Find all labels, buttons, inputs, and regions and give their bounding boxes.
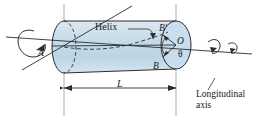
label-point-b: B	[153, 62, 159, 72]
label-longitudinal-axis-line1: Longitudinal	[196, 90, 245, 100]
label-length: L	[117, 79, 123, 90]
figure-svg	[0, 0, 258, 120]
label-longitudinal-axis-line2: axis	[196, 101, 211, 111]
torsion-shaft-figure: A B B′ O θ Helix L Longitudinal axis	[0, 0, 258, 120]
dimension-arrowhead-left	[64, 85, 72, 91]
label-point-o: O	[177, 37, 184, 47]
label-point-a: A	[38, 49, 44, 59]
torque-arrowhead-right-outer	[210, 47, 217, 53]
label-point-b-prime: B′	[159, 24, 167, 34]
label-helix: Helix	[95, 22, 117, 33]
dimension-arrowhead-right	[168, 85, 176, 91]
label-angle-theta: θ	[178, 50, 183, 60]
torque-arrow-right-inner	[228, 43, 237, 54]
